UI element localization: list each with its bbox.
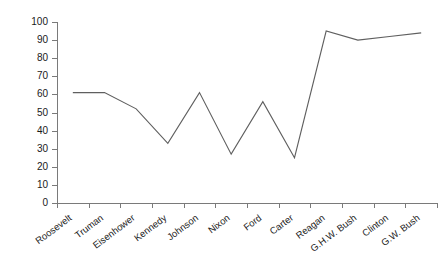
y-tick-label: 30 (8, 144, 48, 154)
y-tick-label: 40 (8, 126, 48, 136)
y-tick-label: 50 (8, 108, 48, 118)
y-tick-mark (52, 149, 57, 150)
y-tick-label: 100 (8, 17, 48, 27)
y-tick-mark (52, 76, 57, 77)
x-tick-mark (89, 203, 90, 208)
x-tick-mark (57, 203, 58, 208)
y-axis-line (57, 22, 58, 204)
y-tick-mark (52, 131, 57, 132)
x-tick-mark (342, 203, 343, 208)
x-tick-mark (405, 203, 406, 208)
x-tick-mark (184, 203, 185, 208)
x-tick-mark (120, 203, 121, 208)
y-tick-label: 80 (8, 53, 48, 63)
y-tick-mark (52, 40, 57, 41)
line-chart: 0102030405060708090100 RooseveltTrumanEi… (0, 0, 448, 271)
y-tick-mark (52, 58, 57, 59)
y-tick-label: 20 (8, 162, 48, 172)
y-tick-mark (52, 167, 57, 168)
x-tick-mark (279, 203, 280, 208)
y-tick-label: 10 (8, 180, 48, 190)
data-series-line (73, 31, 421, 158)
x-tick-mark (310, 203, 311, 208)
y-tick-mark (52, 113, 57, 114)
x-tick-mark (152, 203, 153, 208)
y-tick-label: 90 (8, 35, 48, 45)
x-tick-mark (374, 203, 375, 208)
x-tick-mark (247, 203, 248, 208)
x-tick-mark (437, 203, 438, 208)
x-tick-mark (215, 203, 216, 208)
y-tick-label: 70 (8, 71, 48, 81)
y-tick-mark (52, 22, 57, 23)
y-tick-label: 60 (8, 89, 48, 99)
y-tick-mark (52, 94, 57, 95)
y-tick-mark (52, 185, 57, 186)
plot-area (0, 0, 448, 271)
y-tick-label: 0 (8, 198, 48, 208)
